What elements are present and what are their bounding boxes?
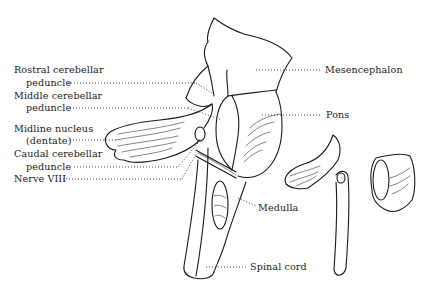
olive-shape (212, 181, 228, 229)
nerve-viii-shape (196, 150, 236, 178)
label-pons: Pons (326, 109, 349, 120)
mesencephalon-shape (186, 18, 292, 98)
label-rostral-cerebellar-line1: Rostral cerebellar (14, 64, 104, 75)
label-midline-nucleus-line1: Midline nucleus (14, 123, 93, 134)
isolated-pons-shape (371, 154, 415, 211)
medulla-spinal-cord-shape (184, 148, 246, 279)
label-rostral-cerebellar-line2: peduncle (26, 77, 71, 88)
label-nerve-viii: Nerve VIII (14, 173, 66, 184)
label-caudal-cerebellar-line1: Caudal cerebellar (14, 148, 103, 159)
pons-shape (216, 92, 282, 178)
label-middle-cerebellar-line2: peduncle (26, 102, 71, 113)
label-medulla: Medulla (258, 202, 298, 213)
label-spinal-cord: Spinal cord (250, 261, 307, 272)
isolated-peduncle-shape (285, 135, 340, 189)
label-middle-cerebellar-line1: Middle cerebellar (14, 90, 102, 101)
isolated-cord-segment-shape (334, 171, 349, 275)
label-mesencephalon: Mesencephalon (325, 64, 403, 75)
label-caudal-cerebellar-line2: peduncle (26, 161, 71, 172)
brainstem-diagram: Rostral cerebellar peduncle Middle cereb… (0, 0, 426, 299)
label-midline-nucleus-line2: (dentate) (26, 135, 72, 146)
dentate-nucleus-shape (195, 127, 205, 141)
